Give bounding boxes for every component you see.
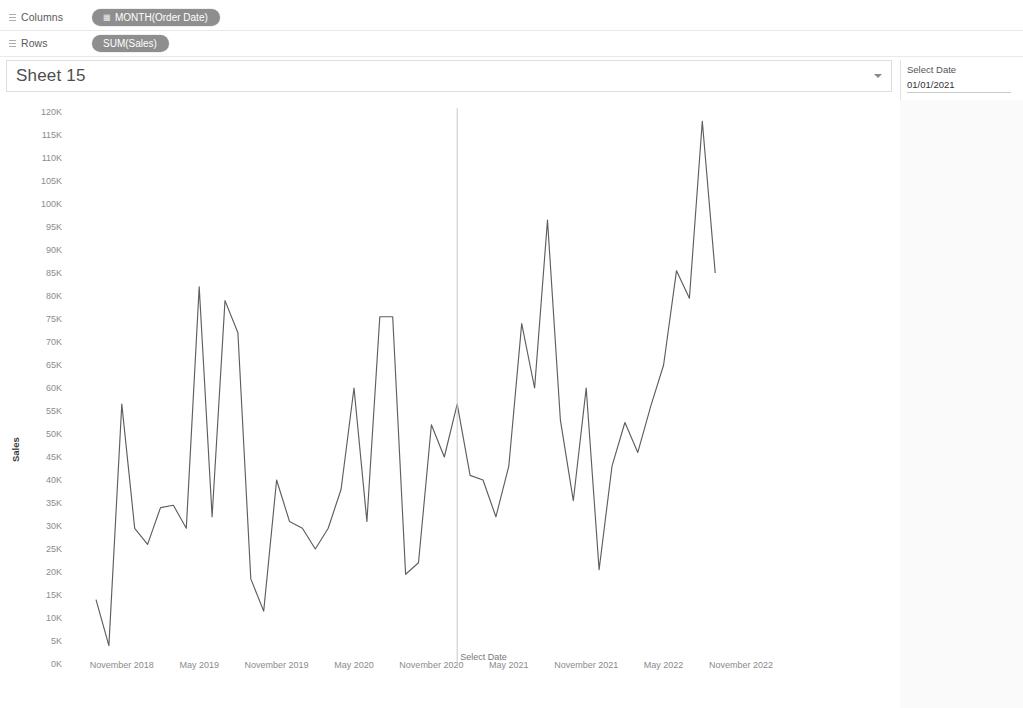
reference-line-label: Select Date [460,652,507,662]
y-tick-label: 55K [10,406,62,416]
y-tick-label: 25K [10,544,62,554]
y-tick-label: 75K [10,314,62,324]
y-tick-label: 5K [10,636,62,646]
rows-label-text: Rows [21,37,48,49]
columns-shelf[interactable]: Columns ▦ MONTH(Order Date) [0,4,220,30]
select-date-filter[interactable]: Select Date 01/01/2021 [900,60,1017,100]
pill-sum-sales[interactable]: SUM(Sales) [92,35,169,52]
rows-shelf-label: Rows [0,37,92,49]
worksheet-title-bar[interactable]: Sheet 15 [6,60,892,92]
filter-date-input[interactable]: 01/01/2021 [907,79,1011,93]
y-tick-label: 110K [10,153,62,163]
y-tick-label: 10K [10,613,62,623]
y-tick-label: 0K [10,659,62,669]
plot-area [62,94,890,708]
grip-icon [9,13,16,22]
y-tick-label: 115K [10,130,62,140]
y-tick-label: 65K [10,360,62,370]
rows-shelf[interactable]: Rows SUM(Sales) [0,30,169,56]
line-chart: Sales Month of Order Date 0K5K10K15K20K2… [0,94,900,708]
watermark-text [912,380,1012,410]
pill-month-order-date-label: MONTH(Order Date) [115,9,208,26]
series-line-sum-sales [62,94,890,708]
y-axis-ticks: 0K5K10K15K20K25K30K35K40K45K50K55K60K65K… [0,94,62,708]
pill-month-order-date[interactable]: ▦ MONTH(Order Date) [92,9,220,26]
calendar-icon: ▦ [103,9,111,26]
grip-icon [9,39,16,48]
filter-title: Select Date [901,60,1017,75]
y-tick-label: 40K [10,475,62,485]
y-tick-label: 105K [10,176,62,186]
y-tick-label: 80K [10,291,62,301]
y-tick-label: 50K [10,429,62,439]
shelf-divider-bottom [0,56,1023,57]
columns-shelf-label: Columns [0,11,92,23]
pill-sum-sales-label: SUM(Sales) [103,35,157,52]
y-tick-label: 120K [10,107,62,117]
chevron-down-icon[interactable] [874,74,882,78]
y-tick-label: 100K [10,199,62,209]
y-tick-label: 60K [10,383,62,393]
y-tick-label: 45K [10,452,62,462]
y-tick-label: 35K [10,498,62,508]
y-tick-label: 95K [10,222,62,232]
y-tick-label: 90K [10,245,62,255]
y-tick-label: 15K [10,590,62,600]
y-tick-label: 30K [10,521,62,531]
y-tick-label: 70K [10,337,62,347]
y-tick-label: 20K [10,567,62,577]
page-title: Sheet 15 [7,66,86,86]
y-tick-label: 85K [10,268,62,278]
columns-label-text: Columns [21,11,63,23]
